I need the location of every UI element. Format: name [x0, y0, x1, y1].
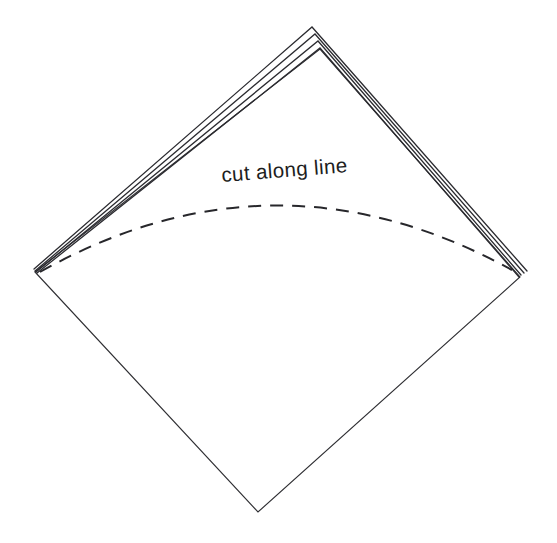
- figure-root: cut along line: [0, 0, 557, 543]
- sheet-outline: [35, 49, 520, 512]
- folded-paper-diagram: cut along line: [0, 0, 557, 543]
- cut-along-line-arc: [40, 205, 512, 272]
- fold-layer-2: [35, 34, 524, 273]
- cut-along-line-label: cut along line: [221, 153, 349, 186]
